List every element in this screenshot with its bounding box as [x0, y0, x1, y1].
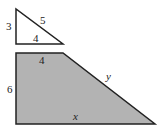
figure: 3 5 4 4 6 y x: [0, 0, 161, 135]
trapezoid-label-slant: y: [105, 70, 111, 82]
trapezoid-label-bottom: x: [72, 110, 78, 122]
trapezoid-label-height: 6: [7, 83, 13, 95]
triangle-label-vertical: 3: [6, 20, 12, 32]
trapezoid: [16, 53, 155, 124]
triangle-label-base: 4: [33, 32, 39, 44]
trapezoid-label-top: 4: [39, 54, 45, 66]
triangle-label-hypotenuse: 5: [40, 14, 46, 26]
